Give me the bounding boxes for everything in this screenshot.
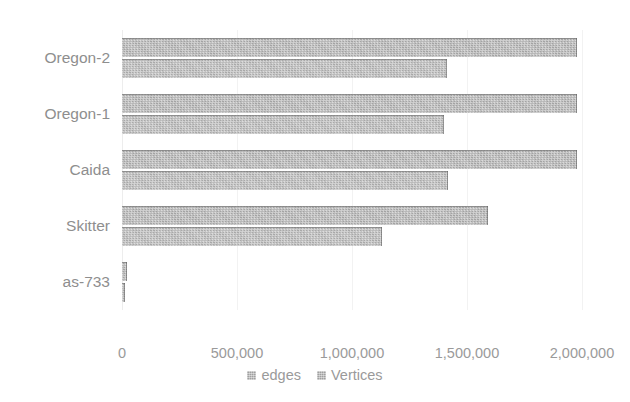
chart-category-row: Oregon-2	[122, 30, 582, 86]
plot-area: as-733SkitterCaidaOregon-1Oregon-2 0500,…	[122, 30, 582, 310]
category-axis-label: Skitter	[66, 218, 110, 234]
bar-edges-as-733[interactable]	[122, 262, 127, 281]
chart-category-row: Skitter	[122, 198, 582, 254]
category-axis-label: Oregon-2	[45, 50, 110, 66]
legend-item-edges[interactable]: edges	[247, 368, 301, 383]
x-axis-tick-label: 0	[118, 346, 126, 361]
category-axis-label: Caida	[70, 162, 111, 178]
bar-vertices-as-733[interactable]	[122, 283, 125, 302]
legend-label: edges	[261, 368, 301, 383]
x-axis-tick-label: 1,000,000	[320, 346, 385, 361]
x-axis-tick-label: 2,000,000	[550, 346, 615, 361]
legend-item-vertices[interactable]: Vertices	[317, 368, 383, 383]
bar-vertices-skitter[interactable]	[122, 227, 382, 246]
bar-vertices-oregon-1[interactable]	[122, 115, 444, 134]
bar-chart: as-733SkitterCaidaOregon-1Oregon-2 0500,…	[0, 0, 630, 402]
chart-category-row: Caida	[122, 142, 582, 198]
legend-label: Vertices	[331, 368, 383, 383]
legend-swatch-icon	[247, 371, 256, 380]
bar-edges-caida[interactable]	[122, 150, 577, 169]
chart-category-row: as-733	[122, 254, 582, 310]
chart-category-row: Oregon-1	[122, 86, 582, 142]
bar-edges-oregon-2[interactable]	[122, 38, 577, 57]
bar-edges-oregon-1[interactable]	[122, 94, 577, 113]
chart-legend: edges Vertices	[0, 368, 630, 383]
x-axis-tick-label: 1,500,000	[435, 346, 500, 361]
legend-swatch-icon	[317, 371, 326, 380]
bar-vertices-oregon-2[interactable]	[122, 59, 447, 78]
bar-vertices-caida[interactable]	[122, 171, 448, 190]
x-axis-tick-label: 500,000	[211, 346, 263, 361]
category-axis-label: Oregon-1	[45, 106, 110, 122]
category-axis-label: as-733	[63, 274, 110, 290]
bar-edges-skitter[interactable]	[122, 206, 488, 225]
gridline	[582, 30, 583, 310]
